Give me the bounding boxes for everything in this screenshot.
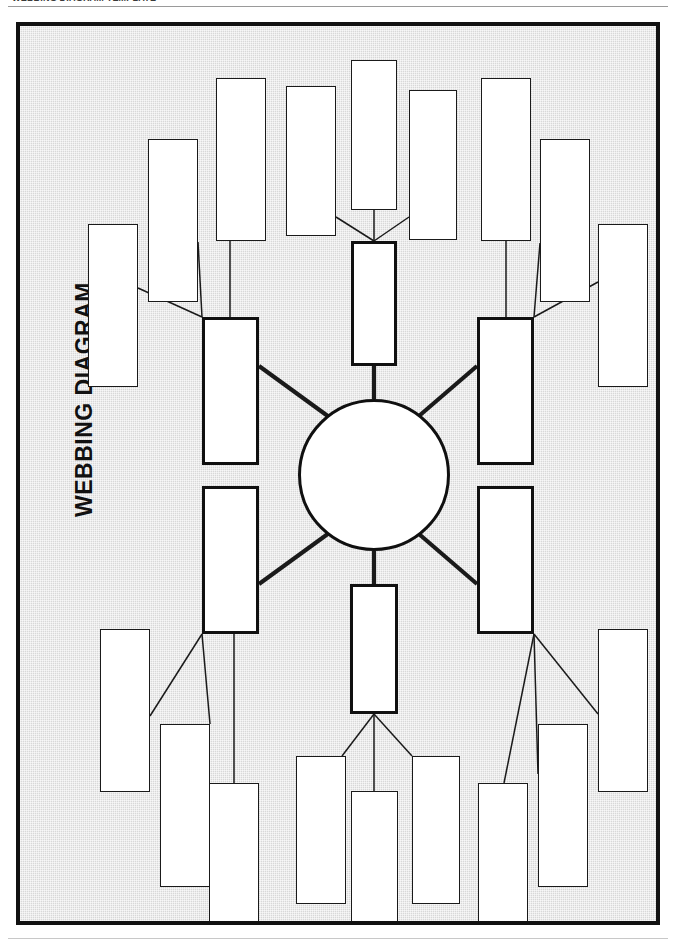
leaf-line-br-3 — [534, 634, 598, 714]
leaf-node-bottom-left-2[interactable] — [160, 724, 210, 887]
center-node-circle[interactable] — [298, 399, 450, 551]
leaf-line-bc-1 — [342, 714, 374, 756]
leaf-node-top-left-1[interactable] — [88, 224, 138, 387]
leaf-node-top-right-1[interactable] — [481, 78, 531, 241]
leaf-line-br-1 — [504, 634, 534, 783]
page-header-text: WEBBING DIAGRAM TEMPLATE — [12, 0, 156, 3]
leaf-line-tl-2 — [198, 242, 202, 317]
leaf-node-bottom-left-1[interactable] — [100, 629, 150, 792]
leaf-node-bottom-right-1[interactable] — [478, 783, 528, 925]
leaf-node-top-center-3[interactable] — [409, 90, 457, 240]
leaf-line-tc-3 — [374, 217, 409, 241]
leaf-line-bl-1 — [150, 634, 202, 716]
branch-node-top-center[interactable] — [351, 241, 397, 366]
branch-node-bottom-left[interactable] — [202, 486, 259, 634]
spoke-top-left — [259, 366, 336, 422]
leaf-node-top-center-2[interactable] — [351, 60, 397, 210]
leaf-line-tc-1 — [336, 217, 374, 241]
leaf-node-bottom-left-3[interactable] — [209, 783, 259, 925]
footer-divider — [8, 938, 668, 939]
page-header: WEBBING DIAGRAM TEMPLATE — [0, 0, 676, 12]
leaf-node-top-right-3[interactable] — [598, 224, 648, 387]
leaf-node-top-left-2[interactable] — [148, 139, 198, 302]
spoke-bottom-right — [412, 528, 477, 584]
leaf-node-bottom-center-3[interactable] — [412, 756, 460, 904]
leaf-connector-group-bottom-center — [342, 714, 412, 791]
branch-node-top-left[interactable] — [202, 317, 259, 465]
leaf-connector-group-top-center — [336, 210, 409, 241]
leaf-line-bc-3 — [374, 714, 412, 756]
diagram-frame: WEBBING DIAGRAM — [16, 22, 660, 925]
leaf-node-top-center-1[interactable] — [286, 86, 336, 236]
leaf-line-bl-2 — [202, 634, 210, 724]
branch-node-top-right[interactable] — [477, 317, 534, 465]
leaf-node-bottom-right-2[interactable] — [538, 724, 588, 887]
leaf-node-top-right-2[interactable] — [540, 139, 590, 302]
leaf-node-top-left-3[interactable] — [216, 78, 266, 241]
branch-node-bottom-right[interactable] — [477, 486, 534, 634]
leaf-node-bottom-right-3[interactable] — [598, 629, 648, 792]
spoke-top-right — [412, 366, 477, 422]
spoke-bottom-left — [259, 528, 336, 584]
branch-node-bottom-center[interactable] — [350, 584, 398, 714]
leaf-node-bottom-center-1[interactable] — [296, 756, 346, 904]
leaf-node-bottom-center-2[interactable] — [351, 791, 398, 925]
header-divider — [8, 6, 668, 7]
